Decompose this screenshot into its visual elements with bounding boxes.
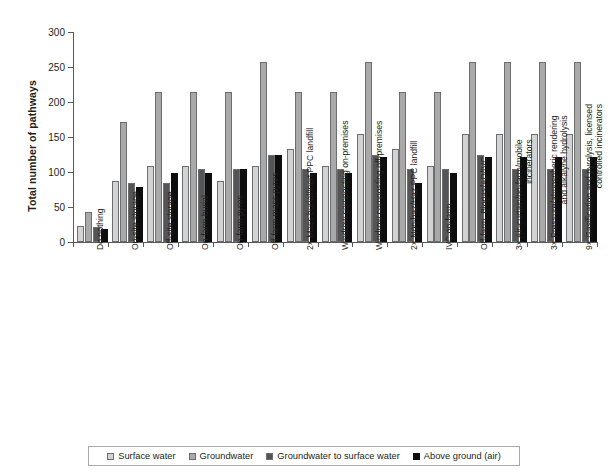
x-axis-tick-label: 2× Mass burial/inert PPC landfill	[305, 128, 315, 250]
bar	[182, 166, 189, 242]
bar	[504, 62, 511, 242]
y-axis-tick-label: 100	[48, 167, 65, 178]
legend-swatch-icon	[107, 453, 114, 460]
bar	[539, 62, 546, 242]
legend-item: Above ground (air)	[413, 451, 501, 461]
bar	[462, 134, 469, 242]
x-axis-tick-label: Off-site storage	[165, 191, 175, 250]
legend-item-label: Above ground (air)	[424, 451, 501, 461]
x-axis-tick-label: 2× Non-haz/Haz PPC landfill	[409, 141, 419, 250]
x-axis-tick	[283, 242, 284, 247]
y-axis-tick	[68, 207, 73, 208]
bar	[260, 62, 267, 242]
x-axis-tick	[213, 242, 214, 247]
y-axis-tick-label: 300	[48, 27, 65, 38]
x-axis-tick	[108, 242, 109, 247]
bar	[574, 62, 581, 242]
bar	[120, 122, 127, 242]
x-axis-tick-label: 3× Air-curtain/on-farm/mobile incinerato…	[514, 139, 534, 250]
bar	[217, 181, 224, 242]
legend-item: Groundwater	[189, 451, 254, 461]
bar	[155, 92, 162, 242]
x-axis-tick-label: Do nothing	[95, 208, 105, 250]
bar	[399, 92, 406, 242]
legend-swatch-icon	[266, 453, 273, 460]
bar	[330, 92, 337, 242]
x-axis-tick-label: Off-farm mass pyres	[270, 172, 280, 250]
legend-item-label: Groundwater	[200, 451, 254, 461]
x-axis-tick-label: Windrow composting off-premises	[374, 121, 384, 250]
x-axis-tick	[422, 242, 423, 247]
chart-legend: Surface waterGroundwaterGroundwater to s…	[88, 446, 520, 466]
y-axis-tick	[68, 172, 73, 173]
x-axis-tick-label: Windrow composting on-premises	[340, 121, 350, 250]
y-axis-line	[73, 32, 74, 243]
y-axis-tick	[68, 102, 73, 103]
bar	[287, 149, 294, 242]
x-axis-tick	[318, 242, 319, 247]
y-axis-tick	[68, 32, 73, 33]
bar	[427, 166, 434, 242]
bar	[295, 92, 302, 242]
bar	[392, 149, 399, 242]
bar	[434, 92, 441, 242]
bar	[469, 62, 476, 242]
bar	[365, 62, 372, 242]
x-axis-tick-label: Off-farm, Biogas/AD/IVC	[479, 157, 489, 250]
y-axis-tick-label: 0	[59, 237, 65, 248]
x-axis-tick	[178, 242, 179, 247]
x-axis-tick-label: On-site storage	[130, 191, 140, 250]
x-axis-tick	[352, 242, 353, 247]
bar	[252, 166, 259, 242]
bar	[147, 166, 154, 242]
x-axis-tick-label: 3× Pressure/atmospheric rendering and al…	[549, 116, 569, 250]
bar	[190, 92, 197, 242]
x-axis-tick	[387, 242, 388, 247]
x-axis-tick	[73, 242, 74, 247]
legend-swatch-icon	[189, 453, 196, 460]
x-axis-tick-label: IVC on-farm	[444, 204, 454, 250]
y-axis-tick	[68, 67, 73, 68]
legend-item: Surface water	[107, 451, 175, 461]
x-axis-tick	[143, 242, 144, 247]
x-axis-tick-label: On-farm burial	[200, 195, 210, 250]
x-axis-tick-label: On-farm pyres	[235, 195, 245, 250]
legend-swatch-icon	[413, 453, 420, 460]
y-axis-tick-label: 200	[48, 97, 65, 108]
x-axis-tick	[457, 242, 458, 247]
y-axis-tick-label: 150	[48, 132, 65, 143]
y-axis-tick-label: 250	[48, 62, 65, 73]
bar	[496, 134, 503, 242]
y-axis-tick-label: 50	[54, 202, 65, 213]
y-axis-tick	[68, 137, 73, 138]
x-axis-tick-label: 9× Gasification and pyrolysis, licensed …	[584, 104, 604, 250]
bar	[77, 226, 84, 242]
bar	[322, 166, 329, 242]
y-axis-title: Total number of pathways	[26, 51, 38, 241]
bar	[85, 212, 92, 242]
bar	[112, 181, 119, 242]
legend-item: Groundwater to surface water	[266, 451, 399, 461]
x-axis-tick	[492, 242, 493, 247]
legend-item-label: Surface water	[118, 451, 175, 461]
x-axis-tick	[248, 242, 249, 247]
bar	[357, 134, 364, 242]
bar	[225, 92, 232, 242]
bar-chart-figure: Total number of pathways 050100150200250…	[0, 0, 608, 476]
legend-item-label: Groundwater to surface water	[277, 451, 399, 461]
